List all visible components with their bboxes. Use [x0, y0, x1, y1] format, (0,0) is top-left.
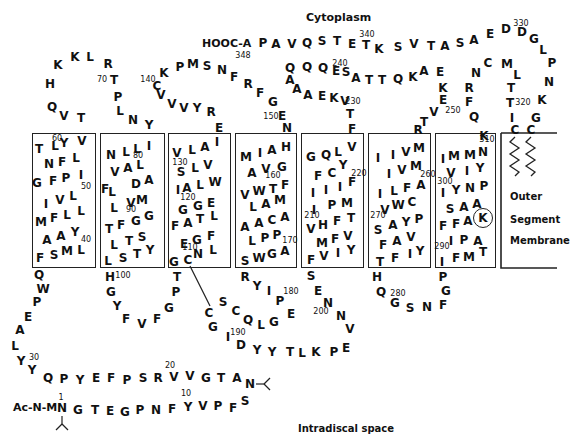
amino-acid-residue: I: [387, 168, 391, 180]
amino-acid-residue: S: [456, 37, 465, 49]
amino-acid-residue: E: [215, 122, 223, 134]
amino-acid-residue: V: [397, 164, 406, 176]
amino-acid-residue: T: [286, 346, 294, 358]
amino-acid-residue: L: [209, 244, 217, 256]
amino-acid-residue: Q: [34, 269, 44, 281]
amino-acid-residue: P: [273, 229, 282, 241]
amino-acid-residue: W: [208, 176, 221, 188]
amino-acid-residue: M: [448, 150, 460, 162]
amino-acid-residue: S: [307, 270, 316, 282]
amino-acid-residue: F: [117, 219, 125, 231]
amino-acid-residue: L: [108, 186, 116, 198]
amino-acid-residue: Y: [347, 244, 356, 256]
amino-acid-residue: T: [427, 40, 435, 52]
amino-acid-residue: P: [330, 346, 339, 358]
amino-acid-residue: N: [471, 67, 481, 79]
residue-number-label: 220: [351, 170, 366, 178]
amino-acid-residue: L: [136, 159, 144, 171]
residue-number-label: 50: [81, 183, 91, 191]
residue-number-label: 250: [445, 107, 460, 115]
amino-acid-residue: E: [106, 405, 114, 417]
amino-acid-residue: T: [35, 143, 43, 155]
amino-acid-residue: F: [107, 372, 115, 384]
amino-acid-residue: V: [347, 141, 356, 153]
amino-acid-residue: G: [531, 112, 541, 124]
amino-acid-residue: L: [513, 69, 521, 81]
amino-acid-residue: Q: [321, 149, 331, 161]
amino-acid-residue: Q: [302, 37, 312, 49]
amino-acid-residue: S: [374, 224, 383, 236]
amino-acid-residue: T: [110, 74, 118, 86]
amino-acid-residue: K: [329, 92, 338, 104]
amino-acid-residue: V: [406, 231, 415, 243]
amino-acid-residue: F: [207, 230, 215, 242]
amino-acid-residue: T: [77, 112, 85, 124]
amino-acid-residue: K: [537, 94, 546, 106]
amino-acid-residue: F: [153, 313, 161, 325]
amino-acid-residue: Q: [393, 73, 403, 85]
amino-acid-residue: P: [114, 91, 123, 103]
residue-number-label: 330: [513, 20, 528, 28]
amino-acid-residue: Y: [145, 119, 154, 131]
amino-acid-residue: T: [105, 223, 113, 235]
amino-acid-residue: P: [439, 271, 448, 283]
residue-number-label: 70: [97, 76, 107, 84]
residue-number-label: 270: [370, 212, 385, 220]
amino-acid-residue: T: [376, 256, 384, 268]
amino-acid-residue: P: [261, 232, 270, 244]
amino-acid-residue: E: [314, 285, 322, 297]
amino-acid-residue: F: [168, 403, 176, 415]
amino-acid-residue: W: [252, 252, 265, 264]
amino-acid-residue: S: [50, 249, 59, 261]
amino-acid-residue: G: [73, 404, 83, 416]
amino-acid-residue: T: [506, 97, 514, 109]
amino-acid-residue: I: [338, 181, 342, 193]
amino-acid-residue: Y: [146, 244, 155, 256]
amino-acid-residue: K: [408, 71, 417, 83]
amino-acid-residue: S: [139, 372, 148, 384]
amino-acid-residue: E: [436, 66, 444, 78]
amino-acid-residue: Y: [17, 355, 26, 367]
amino-acid-residue: V: [110, 166, 119, 178]
amino-acid-residue: L: [110, 202, 118, 214]
amino-acid-residue: W: [36, 283, 49, 295]
amino-acid-residue: K: [374, 43, 383, 55]
amino-acid-residue: A: [419, 65, 428, 77]
amino-acid-residue: N: [282, 122, 292, 134]
amino-acid-residue: N: [128, 114, 138, 126]
amino-acid-residue: S: [241, 395, 250, 407]
amino-acid-residue: A: [440, 40, 449, 52]
amino-acid-residue: G: [106, 286, 116, 298]
amino-acid-residue: N: [422, 301, 432, 313]
amino-acid-residue: D: [131, 178, 141, 190]
amino-acid-residue: F: [333, 215, 341, 227]
amino-acid-residue: V: [287, 38, 296, 50]
amino-acid-residue: M: [35, 216, 47, 228]
amino-acid-residue: L: [334, 146, 342, 158]
amino-acid-residue: H: [105, 271, 115, 283]
amino-acid-residue: P: [259, 37, 268, 49]
amino-acid-residue: I: [336, 247, 340, 259]
amino-acid-residue: K: [311, 346, 320, 358]
residue-number-label: 310: [479, 136, 494, 144]
amino-acid-residue: G: [32, 177, 42, 189]
amino-acid-residue: F: [229, 402, 237, 414]
amino-acid-residue: A: [42, 234, 51, 246]
amino-acid-residue: K: [159, 67, 168, 79]
amino-acid-residue: T: [333, 35, 341, 47]
amino-acid-residue: P: [276, 295, 285, 307]
amino-acid-residue: L: [248, 235, 256, 247]
amino-acid-residue: I: [311, 187, 315, 199]
residue-number-label: 348: [235, 52, 250, 60]
amino-acid-residue: A: [463, 215, 472, 227]
amino-acid-residue: A: [459, 201, 468, 213]
residue-number-label: 180: [283, 288, 298, 296]
amino-acid-residue: E: [92, 372, 100, 384]
amino-acid-residue: Q: [318, 62, 328, 74]
amino-acid-residue: Y: [416, 245, 425, 257]
amino-acid-residue: Y: [28, 364, 37, 376]
amino-acid-residue: F: [230, 71, 238, 83]
amino-acid-residue: H: [372, 271, 382, 283]
amino-acid-residue: I: [465, 165, 469, 177]
residue-number-label: 20: [165, 362, 175, 370]
